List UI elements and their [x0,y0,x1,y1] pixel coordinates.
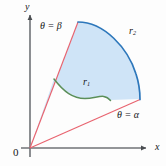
origin-label: 0 [13,147,19,158]
theta-alpha-label: θ = α [117,110,139,120]
r1-subscript: 1 [87,80,90,87]
ray-theta-alpha [30,100,140,149]
x-axis-label: x [155,142,159,152]
theta-beta-label: θ = β [40,21,62,31]
r2-subscript: 2 [133,29,136,36]
r2-label: r2 [129,26,136,37]
r1-label: r1 [83,77,90,88]
polar-region-figure: y x 0 θ = β θ = α r2 r1 [0,0,166,166]
y-axis-label: y [25,2,29,12]
